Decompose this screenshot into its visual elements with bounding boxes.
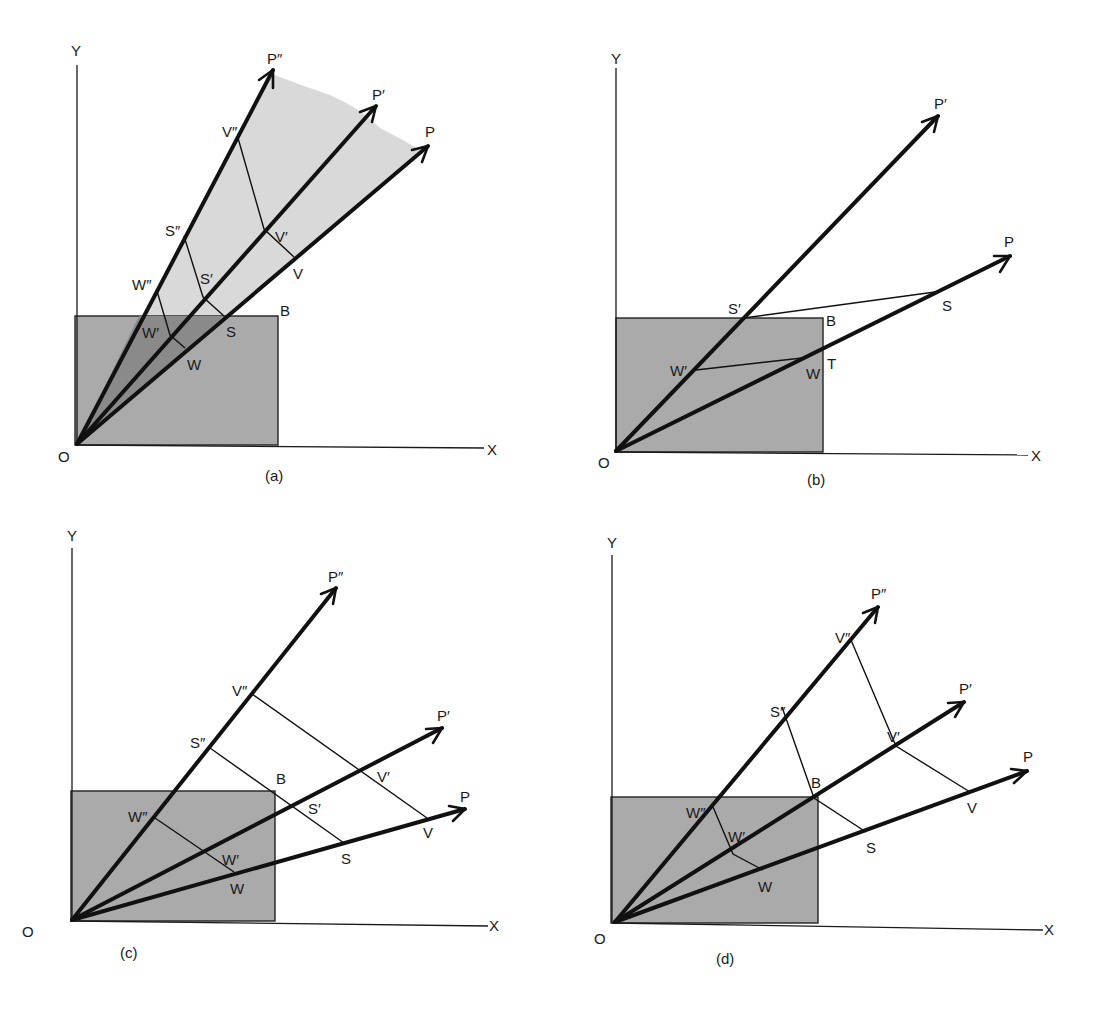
point-label-s-double-prime: S″ bbox=[190, 734, 206, 751]
point-label-s: S bbox=[341, 850, 351, 867]
panel-d: Y X O B P″ P′ P W″ W′ W S″ S V″ V′ V (d) bbox=[594, 534, 1054, 967]
point-label-w-prime: W′ bbox=[142, 324, 159, 341]
ray-label-p-double-prime: P″ bbox=[871, 585, 887, 602]
origin-label: O bbox=[594, 930, 606, 947]
ray-label-p: P bbox=[1004, 233, 1014, 250]
point-label-s: S bbox=[866, 839, 876, 856]
box-corner-label: B bbox=[280, 302, 290, 319]
box bbox=[616, 318, 823, 452]
point-label-v-double-prime: V″ bbox=[222, 123, 238, 140]
point-label-w: W bbox=[230, 880, 245, 897]
point-label-v: V bbox=[967, 799, 977, 816]
box-corner-label: B bbox=[826, 312, 836, 329]
panel-a: Y X O B P″ P′ P W″ W′ W S″ S′ S V″ V′ V … bbox=[58, 42, 497, 484]
point-label-w: W bbox=[187, 356, 202, 373]
ray-label-p-prime: P′ bbox=[959, 680, 972, 697]
v-curve bbox=[851, 640, 970, 792]
point-label-t: T bbox=[827, 355, 836, 372]
ray-label-p: P bbox=[1023, 748, 1033, 765]
point-label-s: S bbox=[942, 297, 952, 314]
point-label-w-double-prime: W″ bbox=[686, 804, 706, 821]
ray-label-p: P bbox=[460, 788, 470, 805]
panel-b: Y X O B P′ P S′ S W′ W T (b) bbox=[598, 50, 1041, 488]
point-label-s-prime: S′ bbox=[728, 300, 741, 317]
point-label-w-double-prime: W″ bbox=[128, 808, 148, 825]
y-axis-label: Y bbox=[71, 42, 81, 59]
point-label-w-prime: W′ bbox=[728, 828, 745, 845]
panel-caption: (c) bbox=[120, 944, 138, 961]
point-label-v-prime: V′ bbox=[275, 228, 288, 245]
s-connector bbox=[744, 292, 935, 318]
ray-label-p-double-prime: P″ bbox=[328, 568, 344, 585]
x-axis-label: X bbox=[1031, 447, 1041, 464]
x-axis bbox=[72, 921, 488, 926]
origin-label: O bbox=[22, 923, 34, 940]
point-label-w: W bbox=[806, 365, 821, 382]
point-label-w: W bbox=[758, 878, 773, 895]
ray-label-p-double-prime: P″ bbox=[267, 50, 283, 67]
figure-canvas: Y X O B P″ P′ P W″ W′ W S″ S′ S V″ V′ V … bbox=[0, 0, 1103, 1012]
ray-label-p-prime: P′ bbox=[372, 86, 385, 103]
point-label-v: V bbox=[293, 265, 303, 282]
point-label-s-prime: S′ bbox=[200, 270, 213, 287]
origin-label: O bbox=[58, 448, 70, 465]
ray-label-p-prime: P′ bbox=[934, 95, 947, 112]
point-label-s-double-prime: S″ bbox=[165, 222, 181, 239]
point-label-s-prime: S′ bbox=[308, 800, 321, 817]
y-axis-label: Y bbox=[611, 50, 621, 67]
box-corner-label: B bbox=[276, 770, 286, 787]
ray-label-p: P bbox=[425, 123, 435, 140]
point-label-v: V bbox=[423, 824, 433, 841]
point-label-v-double-prime: V″ bbox=[835, 629, 851, 646]
panel-caption: (b) bbox=[807, 471, 825, 488]
point-label-v-double-prime: V″ bbox=[232, 682, 248, 699]
y-axis-label: Y bbox=[607, 534, 617, 551]
origin-label: O bbox=[598, 454, 610, 471]
panel-caption: (a) bbox=[265, 467, 283, 484]
y-axis-label: Y bbox=[67, 527, 77, 544]
point-label-s: S bbox=[226, 323, 236, 340]
panel-c: Y X O B P″ P′ P W″ W′ W S″ S′ S V″ V′ V … bbox=[22, 527, 499, 961]
panel-caption: (d) bbox=[716, 950, 734, 967]
x-axis bbox=[612, 923, 1043, 930]
point-label-v-prime: V′ bbox=[887, 728, 900, 745]
ray-label-p-prime: P′ bbox=[437, 707, 450, 724]
point-label-v-prime: V′ bbox=[377, 768, 390, 785]
box bbox=[71, 791, 275, 921]
point-label-s-double-prime: S″ bbox=[770, 703, 786, 720]
x-axis bbox=[77, 445, 484, 448]
box-corner-label: B bbox=[811, 774, 821, 791]
x-axis-label: X bbox=[489, 917, 499, 934]
v-connector bbox=[252, 694, 427, 818]
point-label-w-prime: W′ bbox=[670, 362, 687, 379]
point-label-w-double-prime: W″ bbox=[132, 276, 152, 293]
x-axis-label: X bbox=[487, 441, 497, 458]
x-axis-label: X bbox=[1044, 921, 1054, 938]
point-label-w-prime: W′ bbox=[222, 851, 239, 868]
